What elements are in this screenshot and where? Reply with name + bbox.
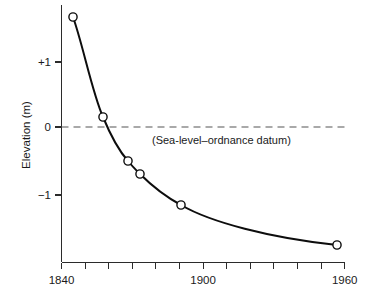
sea-level-datum-annotation: (Sea-level–ordnance datum) [152, 134, 291, 146]
y-tick-label-minus1: −1 [38, 189, 51, 201]
data-point-1884 [136, 170, 144, 178]
chart-container: +1 0 −1 1840 1900 1960 Elevation (m) (Se… [0, 0, 367, 299]
elevation-vs-year-line-chart: +1 0 −1 1840 1900 1960 Elevation (m) (Se… [0, 0, 367, 299]
data-point-1893 [177, 201, 185, 209]
y-axis-title: Elevation (m) [20, 101, 32, 169]
x-tick-label-1900: 1900 [190, 274, 216, 286]
y-tick-label-zero: 0 [45, 121, 51, 133]
y-tick-label-plus1: +1 [38, 56, 51, 68]
data-point-1872 [124, 157, 132, 165]
x-tick-label-1840: 1840 [49, 274, 75, 286]
data-point-1956 [333, 241, 341, 249]
x-tick-label-1960: 1960 [332, 274, 358, 286]
chart-background [0, 0, 367, 299]
data-point-1860 [99, 113, 107, 121]
data-point-1843 [69, 13, 77, 21]
